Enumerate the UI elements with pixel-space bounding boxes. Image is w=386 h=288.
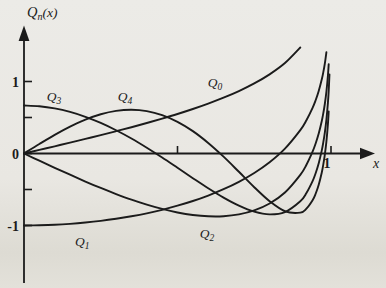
plot-canvas: 10-11Q0Q1Q2Q3Q4Qn(x)x: [0, 0, 386, 288]
scanned-textbook-figure: 10-11Q0Q1Q2Q3Q4Qn(x)x: [0, 0, 386, 288]
y-tick-label: -1: [7, 219, 19, 234]
curve-label-Q1: Q1: [75, 234, 90, 251]
curve-label-Q4: Q4: [118, 89, 133, 106]
legendre-q-functions-plot: 10-11Q0Q1Q2Q3Q4Qn(x)x: [0, 0, 386, 288]
y-axis-title: Qn(x): [27, 4, 58, 22]
y-tick-label: 1: [12, 75, 19, 90]
y-axis-arrowhead: [19, 26, 30, 42]
curve-Q0: [24, 48, 300, 154]
curve-label-Q3: Q3: [47, 89, 62, 106]
curve-Q2: [24, 64, 329, 216]
x-axis-title: x: [372, 156, 380, 171]
curve-label-Q0: Q0: [208, 75, 223, 92]
curve-Q4: [24, 110, 329, 213]
y-tick-label: 0: [12, 147, 19, 162]
curve-label-Q2: Q2: [200, 226, 215, 243]
curve-Q1: [24, 52, 326, 225]
